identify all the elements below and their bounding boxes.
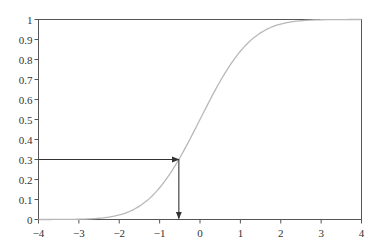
y-tick-label: 0.2 <box>19 174 33 186</box>
x-tick-label: −3 <box>73 227 85 239</box>
y-tick-label: 0.1 <box>19 194 33 206</box>
y-axis-ticks: 00.10.20.30.40.50.60.70.80.91 <box>19 14 39 226</box>
y-tick-label: 1 <box>27 14 33 26</box>
x-tick-label: −1 <box>154 227 166 239</box>
y-tick-label: 0.5 <box>19 114 33 126</box>
x-tick-label: 0 <box>197 227 203 239</box>
y-tick-label: 0.7 <box>19 74 33 86</box>
x-tick-label: 2 <box>278 227 284 239</box>
y-tick-label: 0.4 <box>19 134 33 146</box>
x-tick-label: −2 <box>113 227 125 239</box>
x-axis-ticks: −4−3−2−101234 <box>33 220 365 239</box>
x-tick-label: 1 <box>238 227 244 239</box>
y-tick-label: 0 <box>27 214 33 226</box>
x-tick-label: 3 <box>318 227 324 239</box>
y-tick-label: 0.8 <box>19 54 33 66</box>
x-tick-label: 4 <box>359 227 365 239</box>
cdf-curve <box>39 20 362 220</box>
x-tick-label: −4 <box>33 227 45 239</box>
y-tick-label: 0.9 <box>19 34 33 46</box>
y-tick-label: 0.3 <box>19 154 33 166</box>
normal-cdf-chart: 00.10.20.30.40.50.60.70.80.91 −4−3−2−101… <box>0 0 386 248</box>
y-tick-label: 0.6 <box>19 94 33 106</box>
